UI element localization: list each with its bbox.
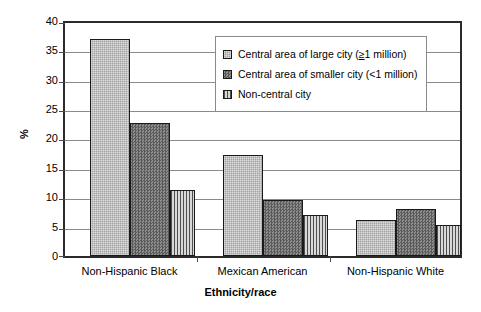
x-tick-mark (330, 256, 331, 262)
y-tick-mark (59, 256, 65, 257)
legend-item-smaller-city: Central area of smaller city (<1 million… (223, 64, 417, 84)
y-tick-mark (59, 23, 65, 24)
legend-swatch-large-city-icon (223, 50, 232, 59)
y-tick-mark (59, 229, 65, 230)
y-tick-label: 30 (28, 75, 58, 86)
bar-mexam-large-city (223, 155, 263, 256)
legend: Central area of large city (≥1 million) … (215, 36, 427, 112)
y-tick-label: 25 (28, 104, 58, 115)
y-tick-label: 0 (28, 251, 58, 262)
bar-nhwhite-non-central (436, 225, 461, 256)
y-tick-mark (59, 82, 65, 83)
bar-nhblack-non-central (170, 190, 195, 256)
legend-item-non-central: Non-central city (223, 84, 417, 104)
y-tick-label: 40 (28, 16, 58, 27)
legend-item-large-city: Central area of large city (≥1 million) (223, 44, 417, 64)
x-category-label-mexam: Mexican American (196, 265, 329, 277)
x-axis-title: Ethnicity/race (0, 286, 481, 298)
bar-nhwhite-large-city (356, 220, 396, 256)
x-category-label-nhwhite: Non-Hispanic White (329, 265, 462, 277)
legend-label-non-central: Non-central city (238, 89, 311, 100)
y-tick-mark (59, 111, 65, 112)
bar-chart: % 40 35 30 25 20 15 10 5 0 (0, 0, 481, 312)
bar-mexam-smaller-city (263, 200, 303, 256)
bar-nhwhite-smaller-city (396, 209, 436, 256)
x-category-label-nhblack: Non-Hispanic Black (63, 265, 196, 277)
y-tick-label: 35 (28, 45, 58, 56)
legend-label-smaller-city: Central area of smaller city (<1 million… (238, 69, 417, 80)
y-tick-mark (59, 140, 65, 141)
legend-swatch-non-central-icon (223, 90, 232, 99)
bar-nhblack-smaller-city (130, 123, 170, 256)
legend-label-large-city: Central area of large city (≥1 million) (238, 49, 407, 60)
y-tick-mark (59, 52, 65, 53)
y-tick-label: 10 (28, 192, 58, 203)
y-tick-label: 15 (28, 163, 58, 174)
y-tick-label: 5 (28, 222, 58, 233)
bar-mexam-non-central (303, 215, 328, 256)
y-tick-mark (59, 170, 65, 171)
y-tick-label: 20 (28, 133, 58, 144)
legend-swatch-smaller-city-icon (223, 70, 232, 79)
plot-area: Central area of large city (≥1 million) … (63, 21, 462, 258)
x-tick-mark (197, 256, 198, 262)
bar-nhblack-large-city (90, 39, 130, 257)
y-tick-mark (59, 199, 65, 200)
